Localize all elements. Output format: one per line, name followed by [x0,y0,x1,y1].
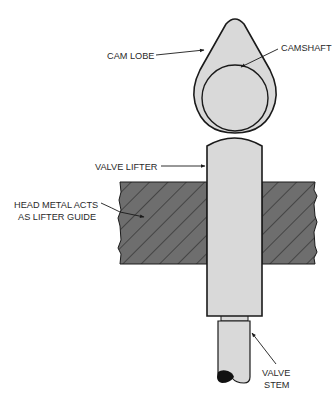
label-valve-stem-line2: STEM [264,380,290,390]
valve-stem [217,315,250,383]
label-cam-lobe: CAM LOBE [107,51,154,61]
valve-stem-leader [252,333,276,364]
cam-lobe-leader [156,50,204,55]
label-valve-stem-line1: VALVE [262,368,290,378]
label-valve-lifter: VALVE LIFTER [95,162,158,172]
label-head-metal-line2: AS LIFTER GUIDE [18,212,96,222]
head-metal-left [118,182,207,264]
diagram-canvas: CAM LOBE CAMSHAFT VALVE LIFTER HEAD META… [0,0,336,401]
camshaft [202,65,268,131]
head-metal-right [262,182,317,264]
valve-lifter [207,138,262,316]
label-camshaft: CAMSHAFT [281,43,332,53]
label-head-metal-line1: HEAD METAL ACTS [14,200,98,210]
